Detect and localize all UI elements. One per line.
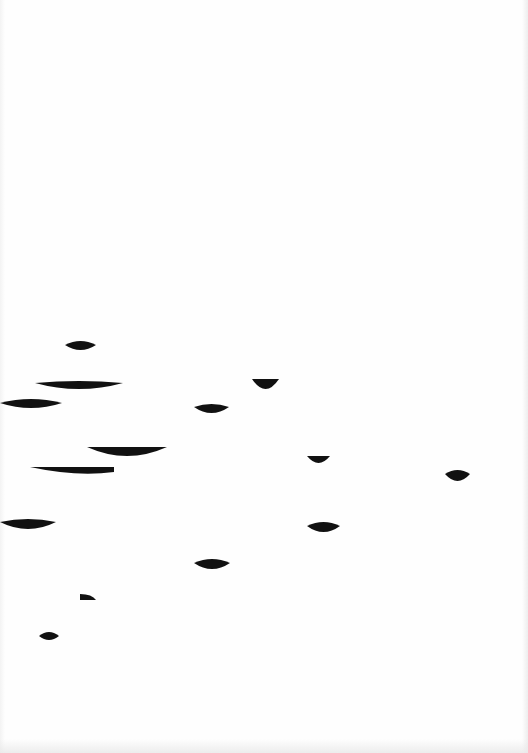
shape-1: [65, 341, 96, 350]
shape-10: [445, 470, 470, 481]
shape-2: [35, 381, 123, 389]
scanned-page: [0, 0, 528, 753]
shape-9: [307, 456, 330, 463]
crescent-shapes-artwork: [0, 0, 528, 753]
shape-8: [194, 404, 229, 413]
shape-12: [194, 559, 230, 569]
shape-3: [0, 399, 62, 408]
shape-13: [80, 594, 96, 600]
shape-4: [87, 447, 167, 456]
shape-5: [30, 467, 114, 474]
shape-6: [0, 519, 56, 529]
shape-14: [39, 632, 59, 640]
shape-7: [252, 379, 279, 389]
shape-11: [307, 522, 340, 532]
